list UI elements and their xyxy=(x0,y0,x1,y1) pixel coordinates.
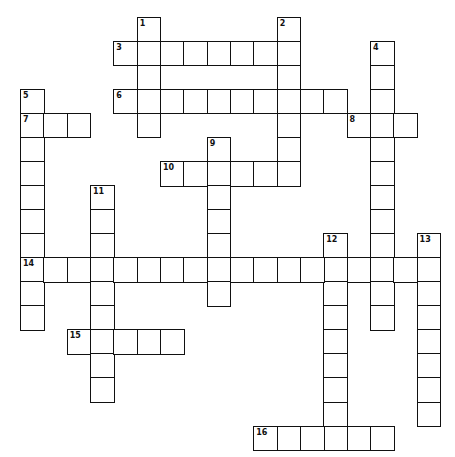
crossword-cell[interactable] xyxy=(90,377,115,403)
crossword-cell[interactable] xyxy=(207,89,232,115)
crossword-cell[interactable] xyxy=(160,89,185,115)
crossword-cell[interactable] xyxy=(417,329,442,355)
crossword-cell[interactable] xyxy=(370,137,395,163)
crossword-cell[interactable] xyxy=(207,233,232,259)
crossword-cell[interactable] xyxy=(90,329,115,355)
crossword-cell[interactable] xyxy=(300,89,325,115)
crossword-cell[interactable]: 14 xyxy=(20,257,45,283)
crossword-cell[interactable] xyxy=(253,89,278,115)
crossword-cell[interactable] xyxy=(370,65,395,91)
crossword-cell[interactable] xyxy=(417,257,442,283)
crossword-cell[interactable] xyxy=(323,353,348,379)
crossword-cell[interactable] xyxy=(370,161,395,187)
crossword-cell[interactable] xyxy=(207,185,232,211)
crossword-cell[interactable]: 6 xyxy=(113,89,138,115)
crossword-cell[interactable] xyxy=(300,257,325,283)
crossword-cell[interactable] xyxy=(137,65,162,91)
crossword-cell[interactable] xyxy=(370,209,395,235)
crossword-cell[interactable] xyxy=(277,89,302,115)
crossword-cell[interactable] xyxy=(370,233,395,259)
crossword-cell[interactable] xyxy=(20,161,45,187)
crossword-cell[interactable] xyxy=(137,329,162,355)
crossword-cell[interactable] xyxy=(137,257,162,283)
crossword-cell[interactable] xyxy=(207,41,232,67)
crossword-cell[interactable] xyxy=(253,41,278,67)
crossword-cell[interactable]: 5 xyxy=(20,89,45,115)
crossword-cell[interactable] xyxy=(277,426,302,452)
crossword-cell[interactable] xyxy=(370,185,395,211)
crossword-cell[interactable]: 10 xyxy=(160,161,185,187)
crossword-cell[interactable] xyxy=(277,257,302,283)
crossword-cell[interactable] xyxy=(20,305,45,331)
crossword-cell[interactable] xyxy=(90,209,115,235)
crossword-cell[interactable] xyxy=(370,281,395,307)
crossword-cell[interactable]: 13 xyxy=(417,233,442,259)
crossword-cell[interactable] xyxy=(323,281,348,307)
crossword-cell[interactable] xyxy=(370,257,395,283)
crossword-cell[interactable] xyxy=(160,41,185,67)
crossword-cell[interactable] xyxy=(90,257,115,283)
crossword-cell[interactable] xyxy=(183,41,208,67)
crossword-cell[interactable] xyxy=(277,161,302,187)
crossword-cell[interactable] xyxy=(90,305,115,331)
crossword-cell[interactable]: 15 xyxy=(67,329,92,355)
crossword-cell[interactable] xyxy=(20,281,45,307)
crossword-cell[interactable] xyxy=(67,113,92,139)
crossword-cell[interactable] xyxy=(67,257,92,283)
crossword-cell[interactable] xyxy=(183,257,208,283)
crossword-cell[interactable] xyxy=(370,113,395,139)
crossword-cell[interactable]: 3 xyxy=(113,41,138,67)
crossword-cell[interactable] xyxy=(230,257,255,283)
crossword-cell[interactable]: 4 xyxy=(370,41,395,67)
crossword-cell[interactable]: 1 xyxy=(137,17,162,43)
crossword-cell[interactable] xyxy=(113,257,138,283)
crossword-cell[interactable] xyxy=(277,113,302,139)
crossword-cell[interactable]: 12 xyxy=(323,233,348,259)
crossword-cell[interactable] xyxy=(370,305,395,331)
crossword-cell[interactable] xyxy=(323,402,348,428)
crossword-cell[interactable] xyxy=(20,185,45,211)
crossword-cell[interactable] xyxy=(43,257,68,283)
crossword-cell[interactable] xyxy=(20,209,45,235)
crossword-cell[interactable] xyxy=(393,257,418,283)
crossword-cell[interactable] xyxy=(207,161,232,187)
crossword-cell[interactable] xyxy=(323,89,348,115)
crossword-cell[interactable] xyxy=(300,426,325,452)
crossword-cell[interactable] xyxy=(277,137,302,163)
crossword-cell[interactable] xyxy=(370,89,395,115)
crossword-cell[interactable] xyxy=(323,257,348,283)
crossword-cell[interactable] xyxy=(207,257,232,283)
crossword-cell[interactable] xyxy=(160,329,185,355)
crossword-cell[interactable] xyxy=(323,305,348,331)
crossword-cell[interactable] xyxy=(417,377,442,403)
crossword-cell[interactable]: 7 xyxy=(20,113,45,139)
crossword-cell[interactable] xyxy=(253,257,278,283)
crossword-cell[interactable] xyxy=(393,113,418,139)
crossword-cell[interactable] xyxy=(90,281,115,307)
crossword-cell[interactable] xyxy=(347,257,372,283)
crossword-cell[interactable] xyxy=(230,41,255,67)
crossword-cell[interactable] xyxy=(43,113,68,139)
crossword-cell[interactable] xyxy=(417,353,442,379)
crossword-cell[interactable]: 2 xyxy=(277,17,302,43)
crossword-cell[interactable] xyxy=(253,161,278,187)
crossword-cell[interactable] xyxy=(207,281,232,307)
crossword-cell[interactable] xyxy=(230,161,255,187)
crossword-cell[interactable] xyxy=(90,353,115,379)
crossword-cell[interactable] xyxy=(137,113,162,139)
crossword-cell[interactable] xyxy=(277,41,302,67)
crossword-cell[interactable] xyxy=(207,209,232,235)
crossword-cell[interactable]: 16 xyxy=(253,426,278,452)
crossword-cell[interactable] xyxy=(183,161,208,187)
crossword-cell[interactable] xyxy=(417,402,442,428)
crossword-cell[interactable] xyxy=(347,426,372,452)
crossword-cell[interactable] xyxy=(417,305,442,331)
crossword-cell[interactable]: 9 xyxy=(207,137,232,163)
crossword-cell[interactable] xyxy=(20,137,45,163)
crossword-cell[interactable] xyxy=(137,41,162,67)
crossword-cell[interactable] xyxy=(323,426,348,452)
crossword-cell[interactable] xyxy=(183,89,208,115)
crossword-cell[interactable] xyxy=(137,89,162,115)
crossword-cell[interactable] xyxy=(113,329,138,355)
crossword-cell[interactable] xyxy=(160,257,185,283)
